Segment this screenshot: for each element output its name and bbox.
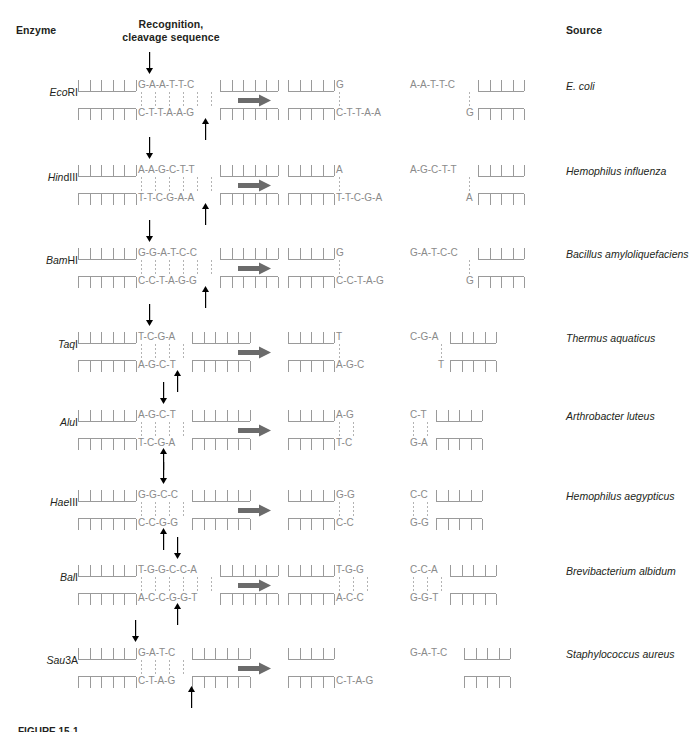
dna-backbone-segment: [288, 165, 334, 177]
enzyme-name-prefix: Hae: [50, 496, 69, 508]
sugar-tick: [113, 361, 114, 372]
dna-backbone-segment: [78, 332, 136, 344]
enzyme-name-prefix: Sau: [46, 654, 65, 666]
backbone-line: [192, 360, 250, 361]
sugar-tick: [255, 248, 256, 259]
sugar-tick: [238, 519, 239, 530]
cleavage-arrow-bottom-strand: [201, 286, 210, 308]
hydrogen-bond: [155, 502, 156, 517]
sugar-tick: [255, 594, 256, 605]
sugar-tick: [288, 648, 289, 659]
sugar-tick: [113, 277, 114, 288]
sugar-tick: [513, 109, 514, 120]
backbone-line: [78, 576, 136, 577]
top-strand-bases: G-G: [336, 489, 355, 501]
dna-backbone-segment: [478, 165, 524, 177]
cleavage-arrow-top-strand: [145, 52, 154, 74]
sugar-tick: [78, 194, 79, 205]
hydrogen-bond: [197, 260, 198, 275]
sugar-tick: [266, 277, 267, 288]
sugar-tick: [323, 410, 324, 421]
sugar-tick: [101, 519, 102, 530]
sugar-tick: [113, 677, 114, 688]
source-organism: Hemophilus influenza: [566, 165, 666, 177]
bottom-strand-bases: C-T-A-G: [336, 675, 373, 687]
backbone-line: [220, 276, 278, 277]
column-header-source: Source: [566, 24, 602, 36]
sugar-tick: [250, 677, 251, 688]
backbone-line: [220, 91, 278, 92]
top-strand-bases: G-G-C-C: [138, 489, 178, 501]
sugar-tick: [478, 109, 479, 120]
sugar-tick: [266, 248, 267, 259]
enzyme-row: TaqIT-C-G-AA-G-C-T TA-G-CC-G-ATThermus a…: [0, 312, 667, 392]
sugar-tick: [288, 248, 289, 259]
hydrogen-bond: [141, 177, 142, 192]
sugar-tick: [90, 109, 91, 120]
sugar-tick: [113, 519, 114, 530]
sugar-tick: [255, 109, 256, 120]
bottom-strand-bases: C-T-T-A-A: [336, 107, 381, 119]
dna-backbone-segment: [288, 565, 334, 577]
sugar-tick: [238, 439, 239, 450]
bottom-strand-bases: C-C: [336, 517, 354, 529]
sugar-tick: [124, 109, 125, 120]
sugar-tick: [464, 677, 465, 688]
cleavage-arrow-top-strand: [131, 620, 140, 642]
dna-backbone-segment: [288, 108, 334, 120]
sugar-tick: [334, 519, 335, 530]
sugar-tick: [243, 165, 244, 176]
sugar-tick: [90, 648, 91, 659]
sugar-tick: [501, 109, 502, 120]
sugar-tick: [311, 248, 312, 259]
backbone-line: [78, 501, 136, 502]
dna-backbone-segment: [192, 332, 250, 344]
sugar-tick: [101, 165, 102, 176]
hydrogen-bond: [353, 422, 354, 437]
sugar-tick: [278, 594, 279, 605]
backbone-line: [192, 421, 250, 422]
sugar-tick: [300, 490, 301, 501]
hydrogen-bond: [155, 177, 156, 192]
dna-backbone-segment: [220, 248, 278, 260]
sugar-tick: [101, 594, 102, 605]
bottom-strand-bases: A-G-C-T: [138, 359, 176, 371]
sugar-tick: [478, 165, 479, 176]
dna-backbone-segment: [450, 332, 496, 344]
sugar-tick: [311, 565, 312, 576]
backbone-line: [464, 659, 510, 660]
enzyme-name: BalI: [16, 571, 78, 583]
backbone-line: [288, 501, 334, 502]
dna-backbone-segment: [478, 248, 524, 260]
dna-backbone-segment: [220, 593, 278, 605]
hydrogen-bond: [367, 577, 368, 592]
sugar-tick: [487, 677, 488, 688]
sugar-tick: [311, 361, 312, 372]
sugar-tick: [496, 332, 497, 343]
sugar-tick: [300, 410, 301, 421]
sugar-tick: [243, 80, 244, 91]
sugar-tick: [323, 332, 324, 343]
column-header-recognition: Recognition, cleavage sequence: [96, 18, 246, 44]
sugar-tick: [136, 677, 137, 688]
dna-backbone-segment: [478, 276, 524, 288]
sugar-tick: [124, 194, 125, 205]
sugar-tick: [220, 194, 221, 205]
dna-backbone-segment: [78, 438, 136, 450]
column-header-recognition-line2: cleavage sequence: [96, 31, 246, 44]
enzyme-name: HindIII: [16, 171, 78, 183]
hydrogen-bond: [427, 502, 428, 517]
bottom-strand-bases: C-C-T-A-G-G: [138, 275, 197, 287]
enzyme-name-prefix: Bam: [46, 254, 68, 266]
backbone-line: [220, 108, 278, 109]
sugar-tick: [334, 594, 335, 605]
backbone-line: [450, 576, 496, 577]
dna-backbone-segment: [78, 108, 136, 120]
sugar-tick: [459, 410, 460, 421]
sugar-tick: [323, 594, 324, 605]
sugar-tick: [238, 490, 239, 501]
sugar-tick: [471, 490, 472, 501]
sugar-tick: [464, 648, 465, 659]
backbone-line: [478, 176, 524, 177]
sugar-tick: [485, 332, 486, 343]
